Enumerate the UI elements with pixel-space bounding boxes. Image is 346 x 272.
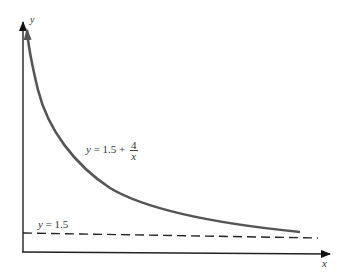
asymptote-line xyxy=(23,233,318,238)
asym-eq-lhs: y xyxy=(38,218,43,230)
y-axis-label: y xyxy=(30,14,34,25)
plot-area xyxy=(0,0,346,272)
asymptote-label: y = 1.5 xyxy=(38,218,68,230)
x-axis-label: x xyxy=(322,257,327,269)
curve-eq-fraction: 4 x xyxy=(130,140,138,161)
curve-eq-lhs: y xyxy=(86,143,91,155)
curve-line xyxy=(27,30,300,232)
x-axis xyxy=(22,252,330,254)
asym-eq-rhs: = 1.5 xyxy=(46,218,69,230)
curve-eq-denominator: x xyxy=(130,151,138,161)
curve-eq-rhs: = 1.5 + xyxy=(94,143,126,155)
curve-equation-label: y = 1.5 + 4 x xyxy=(86,140,138,161)
